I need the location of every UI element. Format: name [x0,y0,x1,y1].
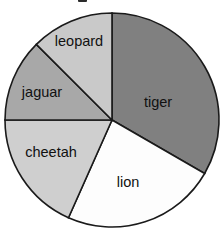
pie-slice-label-lion: lion [117,174,140,190]
pie-chart-svg: tigerlioncheetahjaguarleopard [0,0,222,230]
pie-chart-figure: tigerlioncheetahjaguarleopard [0,0,222,230]
pie-slice-label-cheetah: cheetah [25,144,77,160]
pie-slice-label-leopard: leopard [55,33,103,49]
pie-slice-label-jaguar: jaguar [21,84,62,100]
pie-slices-group [5,13,219,227]
pie-slice-label-tiger: tiger [144,94,172,110]
